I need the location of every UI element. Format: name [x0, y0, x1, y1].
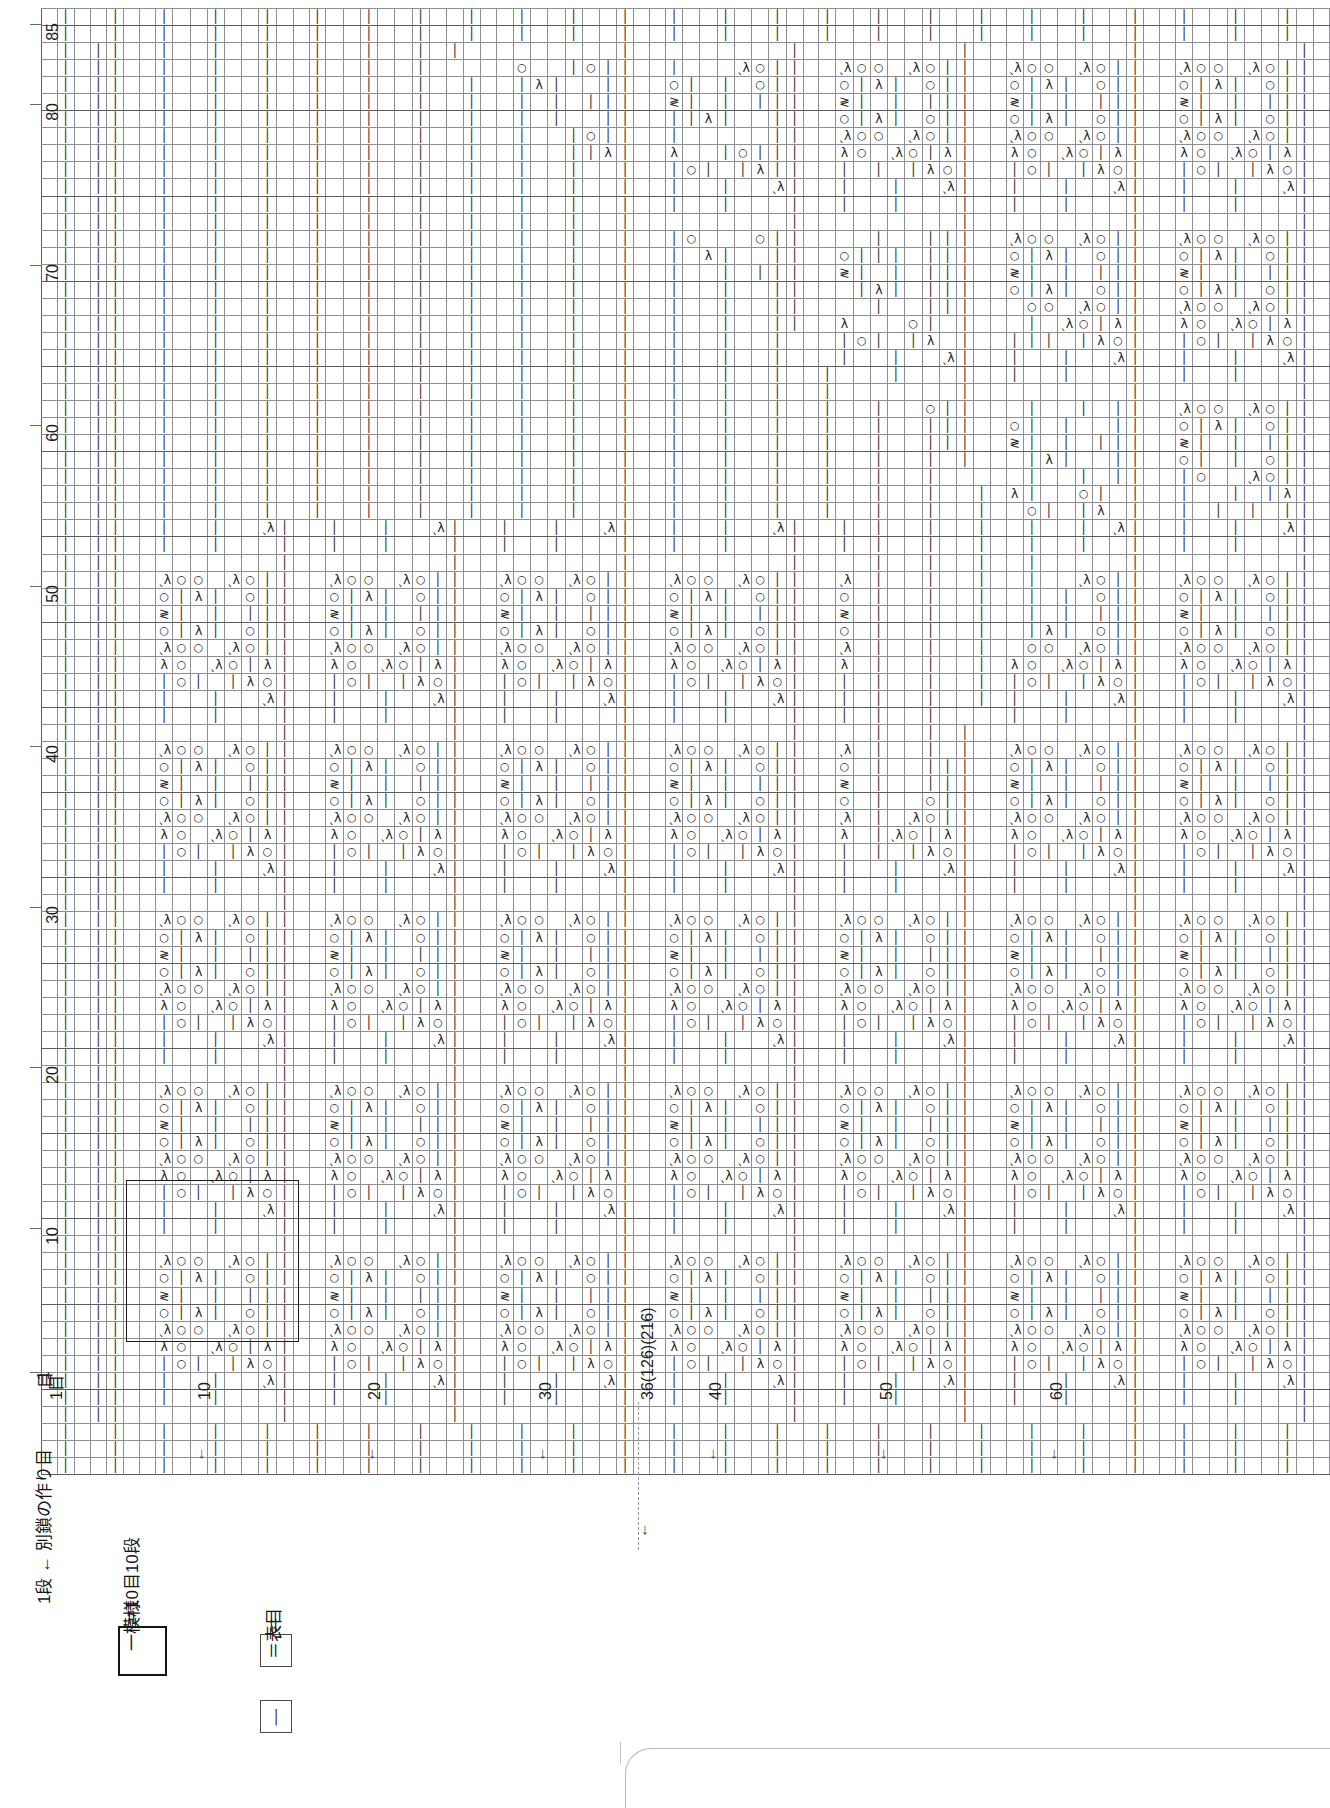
stitch-cell-no-stitch — [412, 1202, 429, 1219]
yarn-over-icon: ○ — [871, 1151, 887, 1167]
stitch-cell-knit-stitch: │ — [1075, 1014, 1092, 1031]
stitch-cell-no-stitch — [819, 349, 836, 366]
stitch-cell-yarn-over: ○ — [1092, 298, 1109, 315]
stitch-cell-knit-stitch: │ — [1127, 1065, 1144, 1082]
stitch-cell-knit-stitch: │ — [1227, 929, 1244, 946]
stitch-cell-no-stitch — [600, 179, 617, 196]
stitch-cell-knit-stitch: │ — [786, 724, 803, 741]
stitch-cell-knit-stitch: │ — [666, 1355, 683, 1372]
stitch-cell-no-stitch — [870, 43, 887, 60]
stitch-cell-knit-stitch: │ — [1262, 1168, 1279, 1185]
stitch-cell-knit-stitch: │ — [259, 162, 276, 179]
knit-stitch-icon: │ — [277, 810, 293, 826]
stitch-cell-no-stitch — [752, 452, 769, 469]
stitch-cell-yarn-over: ○ — [582, 929, 599, 946]
left-leaning-decrease-icon: λ — [1210, 623, 1226, 639]
stitch-cell-no-stitch — [973, 1287, 990, 1304]
stitch-cell-knit-stitch: │ — [666, 452, 683, 469]
knit-stitch-icon: │ — [464, 503, 480, 519]
stitch-cell-no-stitch — [480, 1270, 496, 1287]
left-leaning-decrease-icon: λ — [769, 1168, 785, 1184]
knit-stitch-icon: │ — [310, 486, 326, 502]
knit-stitch-icon: │ — [277, 827, 293, 843]
stitch-cell-no-stitch — [752, 213, 769, 230]
stitch-cell-knit-stitch: │ — [717, 605, 734, 622]
stitch-cell-knit-stitch: │ — [377, 1219, 394, 1236]
stitch-cell-no-stitch — [293, 179, 309, 196]
yarn-over-icon: ○ — [836, 1270, 852, 1286]
stitch-cell-no-stitch — [343, 77, 360, 94]
knit-stitch-icon: │ — [1024, 435, 1040, 451]
stitch-cell-no-stitch — [309, 571, 326, 588]
yarn-over-icon: ○ — [683, 1185, 699, 1201]
stitch-cell-no-stitch — [395, 111, 412, 128]
knit-stitch-icon: │ — [1093, 1288, 1109, 1304]
stitch-cell-no-stitch — [140, 486, 156, 503]
stitch-cell-knit-stitch: │ — [922, 1117, 939, 1134]
stitch-cell-left-leaning-decrease: λ — [1109, 997, 1126, 1014]
stitch-cell-knit-stitch: │ — [242, 997, 259, 1014]
left-leaning-decrease-icon: λ — [1210, 1270, 1226, 1286]
stitch-cell-knit-stitch: │ — [1127, 196, 1144, 213]
knit-stitch-icon: │ — [413, 1458, 429, 1474]
knit-stitch-icon: │ — [107, 861, 123, 877]
stitch-cell-knit-stitch: │ — [922, 281, 939, 298]
stitch-cell-knit-stitch: │ — [1175, 179, 1192, 196]
stitch-cell-right-leaning-decrease: ˎλ — [1006, 1082, 1023, 1099]
stitch-cell-no-stitch — [1075, 1236, 1092, 1253]
knit-stitch-icon: │ — [326, 674, 342, 690]
stitch-cell-knit-stitch: │ — [1279, 1457, 1296, 1474]
knit-stitch-icon: │ — [583, 947, 599, 963]
right-leaning-decrease-icon: ˎλ — [769, 1202, 785, 1218]
stitch-cell-no-stitch — [377, 1065, 394, 1082]
stitch-row: ││││○││λ○││○││λ○││○││λ○││○││λ○││○││λ○││○… — [42, 1014, 1330, 1031]
stitch-cell-knit-stitch: │ — [412, 1457, 429, 1474]
stitch-cell-right-leaning-decrease: ˎλ — [600, 861, 617, 878]
central-double-decrease-icon: ≷ — [326, 1117, 342, 1133]
stitch-cell-yarn-over: ○ — [242, 1304, 259, 1321]
stitch-cell-knit-stitch: │ — [853, 1134, 870, 1151]
stitch-cell-no-stitch — [1144, 43, 1160, 60]
stitch-cell-knit-stitch: │ — [717, 1117, 734, 1134]
left-leaning-decrease-icon: λ — [430, 998, 446, 1014]
stitch-cell-no-stitch — [1227, 60, 1244, 77]
stitch-cell-no-stitch — [683, 247, 700, 264]
knit-stitch-icon: │ — [871, 452, 887, 468]
stitch-cell-no-stitch — [309, 537, 326, 554]
stitch-cell-no-stitch — [309, 827, 326, 844]
stitch-cell-yarn-over: ○ — [1193, 60, 1210, 77]
knit-stitch-icon: │ — [600, 1117, 616, 1133]
stitch-cell-no-stitch — [650, 1219, 666, 1236]
stitch-cell-no-stitch — [1313, 673, 1329, 690]
stitch-cell-no-stitch — [242, 366, 259, 383]
stitch-cell-no-stitch — [463, 946, 480, 963]
stitch-cell-no-stitch — [480, 196, 496, 213]
knit-stitch-icon: │ — [514, 1458, 530, 1474]
stitch-cell-yarn-over: ○ — [156, 963, 173, 980]
stitch-cell-no-stitch — [225, 77, 242, 94]
knit-stitch-icon: │ — [718, 1134, 734, 1150]
knit-stitch-icon: │ — [156, 179, 172, 195]
stitch-cell-knit-stitch: │ — [90, 401, 107, 418]
yarn-over-icon: ○ — [1262, 589, 1278, 605]
stitch-cell-knit-stitch: │ — [853, 247, 870, 264]
stitch-cell-knit-stitch: │ — [107, 878, 124, 895]
row-tick-30: 30 — [44, 906, 62, 924]
stitch-cell-no-stitch — [140, 1440, 156, 1457]
stitch-cell-no-stitch — [447, 264, 464, 281]
right-leaning-decrease-icon: ˎλ — [326, 1151, 342, 1167]
knit-stitch-icon: │ — [277, 947, 293, 963]
stitch-cell-yarn-over: ○ — [1262, 571, 1279, 588]
stitch-cell-no-stitch — [990, 980, 1006, 997]
stitch-cell-no-stitch — [1160, 997, 1176, 1014]
stitch-cell-no-stitch — [42, 997, 58, 1014]
stitch-cell-no-stitch — [1262, 9, 1279, 26]
knit-stitch-icon: │ — [447, 1049, 463, 1065]
stitch-cell-no-stitch — [600, 384, 617, 401]
stitch-cell-no-stitch — [190, 435, 207, 452]
stitch-cell-no-stitch — [1075, 111, 1092, 128]
stitch-cell-no-stitch — [242, 77, 259, 94]
stitch-cell-no-stitch — [480, 827, 496, 844]
stitch-cell-no-stitch — [360, 707, 377, 724]
repeat-marker-guide — [638, 1402, 639, 1550]
